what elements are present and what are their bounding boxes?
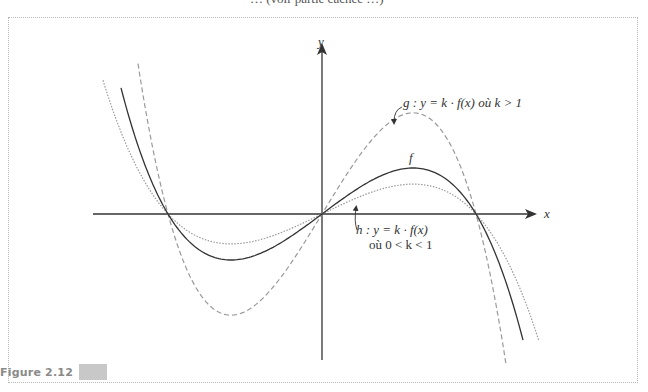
figure-number: Figure 2.12 — [0, 366, 73, 379]
h-label-line2: où 0 < k < 1 — [369, 237, 432, 253]
figure-caption: Figure 2.12 — [0, 363, 107, 381]
f-label: f — [409, 150, 413, 166]
y-axis-label: y — [318, 34, 324, 50]
x-axis-label: x — [544, 206, 550, 222]
caption-swatch — [79, 364, 107, 380]
h-label-line1: h : y = k · f(x) — [356, 222, 428, 238]
function-graph — [0, 0, 648, 392]
g-label: g : y = k · f(x) où k > 1 — [403, 95, 522, 111]
g-pointer-arrow — [394, 107, 402, 122]
